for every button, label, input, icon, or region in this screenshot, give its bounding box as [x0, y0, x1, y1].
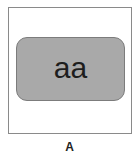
rectangle-label: aa — [54, 53, 87, 83]
panel-caption: A — [0, 140, 139, 154]
rounded-rectangle: aa — [16, 37, 125, 101]
